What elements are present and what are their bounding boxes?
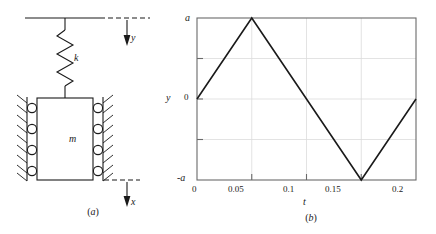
- spring-coil: [57, 30, 73, 86]
- axis-arrow-y: [124, 20, 131, 46]
- left-wall-hatching: [17, 95, 27, 181]
- figure-root: k m y x (a): [0, 0, 436, 234]
- x-tick-label-0-05: 0.05: [228, 184, 244, 194]
- panel-spring-mass-diagram: k m y x (a): [0, 0, 186, 234]
- spring-stiffness-label: k: [74, 52, 78, 63]
- x-tick-label-0-15: 0.15: [325, 184, 341, 194]
- mass-label: m: [69, 133, 76, 144]
- x-tick-label-0: 0: [192, 184, 197, 194]
- axis-arrow-x: [124, 182, 131, 207]
- y-axis-title: y: [166, 92, 170, 103]
- x-tick-label-0-2: 0.2: [392, 184, 403, 194]
- y-direction-label: y: [131, 32, 135, 43]
- mass-block: [37, 98, 93, 180]
- panel-a-caption: (a): [0, 206, 186, 217]
- panel-a-caption-letter: a: [91, 206, 96, 217]
- x-axis-title: t: [303, 196, 306, 207]
- y-tick-label-a: a: [185, 12, 190, 23]
- x-tick-label-0-1: 0.1: [283, 184, 294, 194]
- panel-b-caption-letter: b: [309, 212, 314, 223]
- left-rollers: [27, 103, 36, 175]
- panel-waveform-chart: a 0 -a y 0 0.05 0.1 0.15 0.2 t (b): [186, 0, 436, 234]
- panel-b-caption: (b): [186, 212, 436, 223]
- right-rollers: [93, 103, 102, 175]
- y-tick-label-zero: 0: [184, 92, 189, 102]
- right-wall-hatching: [103, 95, 113, 181]
- y-tick-label-neg-a: -a: [177, 172, 185, 183]
- spring-mass-svg: [0, 0, 186, 234]
- waveform-chart-svg: [186, 0, 436, 234]
